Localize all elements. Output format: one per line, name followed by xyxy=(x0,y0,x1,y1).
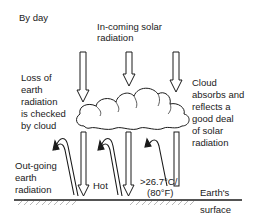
label-cloud-4: good deal xyxy=(192,113,234,124)
label-earths: Earth's xyxy=(200,187,229,198)
label-cloud-5: of solar xyxy=(192,125,223,136)
label-loss-2: earth xyxy=(21,84,43,95)
label-cloud-1: Cloud xyxy=(192,77,217,88)
label-loss-5: by cloud xyxy=(21,120,56,131)
solar-arrow-middle xyxy=(123,132,134,196)
label-loss-4: is checked xyxy=(21,108,66,119)
incoming-arrow-middle xyxy=(123,52,135,86)
incoming-arrow-left xyxy=(77,52,89,102)
label-loss-1: Loss of xyxy=(21,72,52,83)
label-outgoing-1: Out-going xyxy=(15,160,57,171)
ground-hatching xyxy=(18,201,194,205)
solar-arrow-left xyxy=(78,132,89,196)
incoming-arrow-right xyxy=(170,52,182,92)
label-incoming-1: In-coming solar xyxy=(97,21,162,32)
title-by-day: By day xyxy=(19,12,48,23)
label-hot: Hot xyxy=(93,180,108,191)
cloud-shape xyxy=(77,88,190,129)
label-cloud-2: absorbs and xyxy=(192,89,244,100)
label-temp-fahrenheit: (80°F) xyxy=(147,187,174,198)
label-temp-celsius: >26.7°C/ xyxy=(140,176,177,187)
label-outgoing-2: earth xyxy=(15,172,37,183)
label-cloud-3: reflects a xyxy=(192,101,231,112)
label-cloud-6: radiation xyxy=(192,137,228,148)
label-loss-3: radiation xyxy=(21,96,57,107)
label-outgoing-3: radiation xyxy=(15,184,51,195)
label-surface: surface xyxy=(200,204,231,215)
label-incoming-2: radiation xyxy=(97,32,133,43)
outgoing-radiation-arrow-1 xyxy=(53,139,78,197)
